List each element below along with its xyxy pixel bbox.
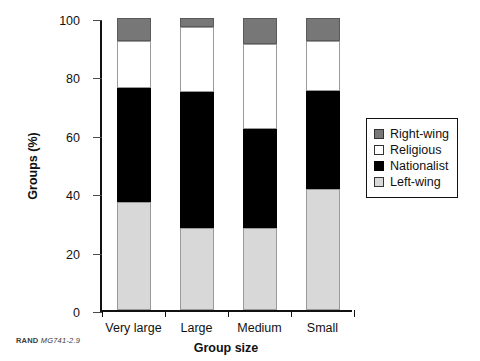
y-axis-title: Groups (%) (26, 132, 40, 199)
chart-legend: Right-wingReligiousNationalistLeft-wing (366, 118, 458, 198)
bar-segment-small-nationalist (306, 91, 340, 189)
y-axis-tick-label: 60 (66, 132, 80, 145)
x-axis-category-label: Large (181, 321, 213, 335)
x-axis-tick (354, 310, 355, 317)
y-axis-tick: 20 (93, 254, 102, 255)
y-axis-tick-label: 80 (66, 73, 80, 86)
legend-item-nationalist: Nationalist (374, 158, 449, 174)
y-axis-tick: 0 (93, 312, 102, 313)
y-axis-tick-label: 20 (66, 248, 80, 261)
bar-segment-very-large-left-wing (117, 202, 151, 310)
y-axis-tick-label: 100 (59, 15, 80, 28)
x-axis-title: Group size (194, 341, 259, 355)
bar-segment-large-right-wing (180, 18, 214, 27)
x-axis-tick (228, 310, 229, 317)
y-axis-tick: 60 (93, 137, 102, 138)
bar-segment-small-left-wing (306, 189, 340, 310)
white-swatch (374, 145, 384, 155)
bar-segment-large-nationalist (180, 92, 214, 228)
footer-caption: RAND MG741-2.9 (16, 336, 80, 345)
bar-segment-medium-right-wing (243, 18, 277, 44)
x-axis-category-label: Medium (237, 321, 281, 335)
bar-segment-medium-nationalist (243, 129, 277, 228)
footer-document-code: MG741-2.9 (41, 336, 80, 345)
bar-segment-medium-religious (243, 44, 277, 129)
x-axis-tick (165, 310, 166, 317)
bar-segment-large-religious (180, 27, 214, 93)
light-gray-swatch (374, 177, 384, 187)
black-swatch (374, 161, 384, 171)
x-axis-category-label: Very large (105, 321, 161, 335)
bar-segment-very-large-nationalist (117, 88, 151, 202)
x-axis-tick (291, 310, 292, 317)
gray-swatch (374, 129, 384, 139)
legend-item-religious: Religious (374, 142, 449, 158)
bar-segment-very-large-religious (117, 41, 151, 88)
bar-column-large (180, 18, 214, 310)
bar-segment-small-religious (306, 41, 340, 91)
footer-source: RAND (16, 336, 38, 345)
bar-segment-medium-left-wing (243, 228, 277, 310)
x-axis-tick (102, 310, 103, 317)
y-axis-tick-label: 0 (73, 307, 80, 320)
bar-segment-very-large-right-wing (117, 18, 151, 41)
legend-item-label: Right-wing (390, 128, 449, 141)
y-axis-tick: 80 (93, 78, 102, 79)
legend-item-label: Left-wing (390, 176, 441, 189)
legend-item-left-wing: Left-wing (374, 174, 449, 190)
bar-column-medium (243, 18, 277, 310)
x-axis-category-label: Small (307, 321, 338, 335)
y-axis-tick: 40 (93, 195, 102, 196)
legend-item-right-wing: Right-wing (374, 126, 449, 142)
bar-column-small (306, 18, 340, 310)
y-axis-tick: 100 (93, 20, 102, 21)
legend-item-label: Nationalist (390, 160, 448, 173)
bar-segment-small-right-wing (306, 18, 340, 41)
y-axis-tick-label: 40 (66, 190, 80, 203)
bar-segment-large-left-wing (180, 228, 214, 310)
plot-area: 020406080100 Very largeLargeMediumSmall (100, 20, 352, 312)
stacked-bar-chart-figure: Groups (%) 020406080100 Very largeLargeM… (0, 0, 480, 361)
bar-column-very-large (117, 18, 151, 310)
legend-item-label: Religious (390, 144, 441, 157)
